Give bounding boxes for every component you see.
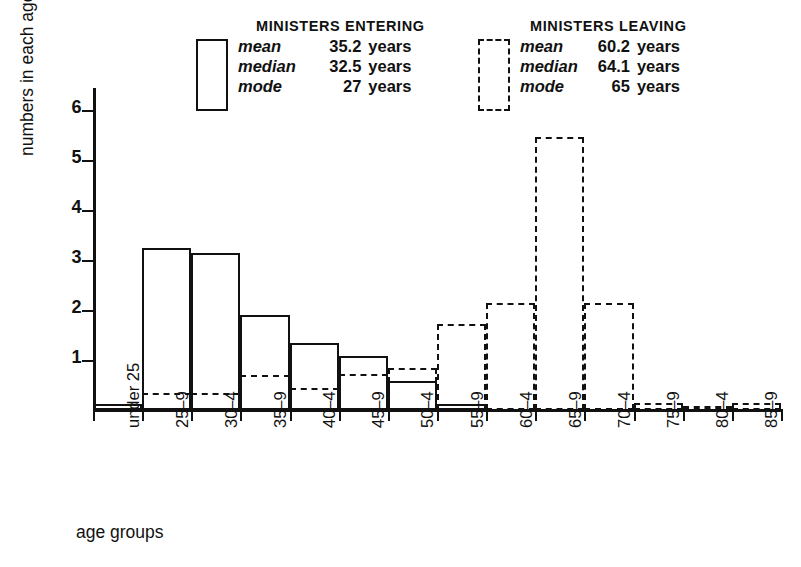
stat-value-mean: 35.2 [316, 37, 361, 56]
bar-entering-5 [339, 356, 388, 410]
legend-entering-title: MINISTERS ENTERING [238, 18, 425, 34]
stat-label-median: median [520, 57, 584, 76]
y-tick-label: 4 [71, 198, 81, 216]
y-tick-5: 5 [82, 160, 95, 162]
x-tick [93, 410, 95, 421]
stat-value-median: 32.5 [316, 57, 361, 76]
x-axis-title: age groups [76, 522, 164, 543]
y-axis-title: numbers in each age group [17, 0, 43, 156]
bar-entering-1 [142, 248, 191, 411]
bar-entering-2 [191, 253, 240, 411]
bar-entering-6 [388, 381, 437, 410]
stat-value-median: 64.1 [591, 57, 630, 76]
y-axis-line [93, 88, 96, 412]
stat-unit-mean: years [637, 37, 687, 56]
bar-leaving-9 [535, 137, 584, 410]
stat-unit-mean: years [368, 37, 424, 56]
bar-entering-0 [93, 404, 142, 410]
x-tick [388, 410, 390, 421]
y-tick-3: 3 [82, 260, 95, 262]
stat-label-median: median [238, 57, 309, 76]
bar-entering-7 [437, 404, 486, 411]
bar-leaving-12 [683, 406, 732, 410]
y-tick-2: 2 [82, 310, 95, 312]
stat-label-mean: mean [238, 37, 309, 56]
x-tick [732, 410, 734, 421]
legend-leaving-body: MINISTERS LEAVING mean 60.2 years median… [520, 18, 687, 96]
y-tick-label: 6 [71, 98, 81, 116]
bar-leaving-7 [437, 324, 486, 410]
stat-unit-median: years [637, 57, 687, 76]
y-tick-6: 6 [82, 110, 95, 112]
legend-entering-body: MINISTERS ENTERING mean 35.2 years media… [238, 18, 425, 96]
x-tick [339, 410, 341, 421]
x-tick [683, 410, 685, 421]
legend-leaving-title: MINISTERS LEAVING [520, 18, 687, 34]
stat-unit-median: years [368, 57, 424, 76]
y-tick-label: 3 [71, 248, 81, 266]
bar-leaving-11 [634, 403, 683, 411]
x-category-label-0: under 25 [124, 363, 143, 428]
stat-label-mean: mean [520, 37, 584, 56]
bar-leaving-8 [486, 303, 535, 411]
bar-leaving-13 [732, 403, 781, 411]
y-tick-1: 1 [82, 360, 95, 362]
stat-value-mean: 60.2 [591, 37, 630, 56]
x-tick [781, 410, 783, 421]
y-tick-4: 4 [82, 210, 95, 212]
bar-entering-3 [240, 315, 289, 410]
x-tick [437, 410, 439, 421]
y-tick-label: 2 [71, 298, 81, 316]
y-tick-label: 1 [71, 348, 81, 366]
y-tick-label: 5 [71, 148, 81, 166]
plot-area: 123456 under 2525–930–435–940–445–950–45… [93, 88, 781, 410]
chart-figure: MINISTERS ENTERING mean 35.2 years media… [0, 0, 801, 567]
bar-entering-4 [290, 343, 339, 410]
bar-leaving-10 [584, 303, 633, 411]
